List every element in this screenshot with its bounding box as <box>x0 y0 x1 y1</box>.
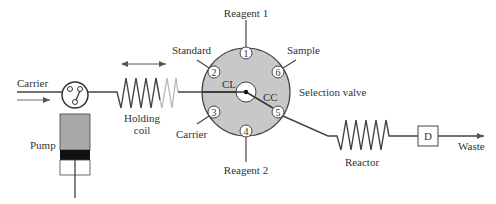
holding-coil-label-2: coil <box>134 124 151 136</box>
svg-text:3: 3 <box>212 107 217 118</box>
reagent1-label: Reagent 1 <box>224 7 268 19</box>
sia-diagram: Carrier Pump Holding coil <box>0 0 496 204</box>
pump-piston <box>60 150 90 160</box>
svg-text:5: 5 <box>276 107 281 118</box>
svg-text:2: 2 <box>212 67 217 78</box>
carrier-inlet-label: Carrier <box>17 77 48 89</box>
pump-barrel <box>60 114 90 150</box>
svg-text:6: 6 <box>276 67 281 78</box>
detector-label: D <box>424 130 432 142</box>
detector: D <box>418 126 438 146</box>
port-5: 5 <box>272 106 284 118</box>
carrier-port-label: Carrier <box>176 128 207 140</box>
port-6: 6 <box>272 66 284 78</box>
holding-coil-label-1: Holding <box>124 112 161 124</box>
port-3: 3 <box>208 106 220 118</box>
waste-label: Waste <box>458 140 485 152</box>
port-2: 2 <box>208 66 220 78</box>
svg-text:4: 4 <box>244 126 249 137</box>
cc-label: CC <box>263 91 278 103</box>
standard-label: Standard <box>172 44 212 56</box>
svg-text:1: 1 <box>244 48 249 59</box>
port-1: 1 <box>240 47 252 59</box>
pump-label: Pump <box>30 139 56 151</box>
reactor-coil: Reactor <box>334 120 418 168</box>
selection-valve-label: Selection valve <box>299 86 367 98</box>
pump: Pump <box>30 82 90 198</box>
sample-label: Sample <box>287 44 320 56</box>
reagent2-label: Reagent 2 <box>224 164 268 176</box>
holding-coil: Holding coil <box>113 64 204 136</box>
reactor-label: Reactor <box>345 156 380 168</box>
carrier-inlet: Carrier <box>17 77 62 100</box>
cl-label: CL <box>222 78 236 90</box>
port-4: 4 <box>240 125 252 137</box>
